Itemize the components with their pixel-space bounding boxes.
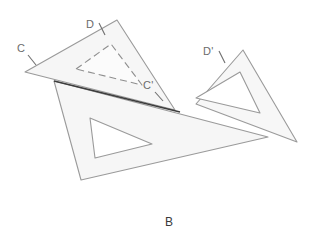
tick-C-icon: [28, 55, 36, 65]
figure-caption: B: [165, 215, 173, 229]
label-C-prime: C': [143, 79, 154, 91]
geometry-figure-svg: C D D' C' B: [0, 0, 313, 234]
label-C: C: [17, 42, 25, 54]
label-D: D: [86, 18, 94, 30]
tick-D-prime-icon: [219, 51, 225, 63]
label-D-prime: D': [203, 45, 214, 57]
figure-container: C D D' C' B: [0, 0, 313, 234]
